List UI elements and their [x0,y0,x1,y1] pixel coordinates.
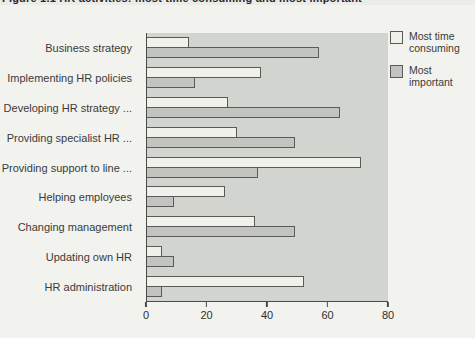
category-label: Changing management [0,212,139,242]
x-tick: 20 [200,302,212,321]
bar-most-important [147,167,258,178]
legend-swatch-light [390,31,403,44]
bar-group [147,33,388,63]
bar-group [147,241,388,271]
bar-most-important [147,256,174,267]
bar-group [147,182,388,212]
bar-group [147,93,388,123]
category-label: Updating own HR [0,242,139,272]
legend-swatch-dark [390,65,403,78]
category-label: Providing support to line ... [0,153,139,183]
bar-most-important [147,196,174,207]
category-label: HR administration [0,272,139,302]
bar-group [147,152,388,182]
tick-mark [327,302,329,307]
tick-mark [387,302,389,307]
category-label: Providing specialist HR ... [0,123,139,153]
x-tick: 80 [382,302,394,321]
tick-label: 60 [321,309,333,321]
category-label: Business strategy [0,33,139,63]
legend-item-most-important: Most important [390,64,474,89]
legend-item-most-time-consuming: Most time consuming [390,30,474,55]
tick-label: 0 [143,309,149,321]
tick-label: 40 [261,309,273,321]
legend-label-most-important: Most important [409,64,471,89]
tick-label: 80 [382,309,394,321]
bar-group [147,122,388,152]
bar-group [147,212,388,242]
bar-group [147,271,388,301]
category-label: Helping employees [0,182,139,212]
tick-mark [206,302,208,307]
tick-label: 20 [200,309,212,321]
x-axis: 020406080 [146,302,388,326]
bar-most-important [147,77,195,88]
category-label: Implementing HR policies [0,63,139,93]
legend-label-most-time-consuming: Most time consuming [409,30,471,55]
bar-most-important [147,107,340,118]
bar-group [147,63,388,93]
figure-title-text: Figure 1.1 HR activities: most time cons… [0,0,475,4]
bar-most-important [147,226,295,237]
legend: Most time consuming Most important [390,30,474,98]
tick-mark [266,302,268,307]
category-labels: Business strategyImplementing HR policie… [0,33,139,302]
tick-mark [145,302,147,307]
plot-area [146,33,388,302]
bar-most-important [147,137,295,148]
x-tick: 0 [143,302,149,321]
bar-most-time-consuming [147,276,304,287]
figure: Figure 1.1 HR activities: most time cons… [0,0,475,338]
bar-most-important [147,47,319,58]
bar-most-important [147,286,162,297]
x-tick: 40 [261,302,273,321]
figure-title-clipped: Figure 1.1 HR activities: most time cons… [0,0,475,5]
category-label: Developing HR strategy ... [0,93,139,123]
x-tick: 60 [321,302,333,321]
